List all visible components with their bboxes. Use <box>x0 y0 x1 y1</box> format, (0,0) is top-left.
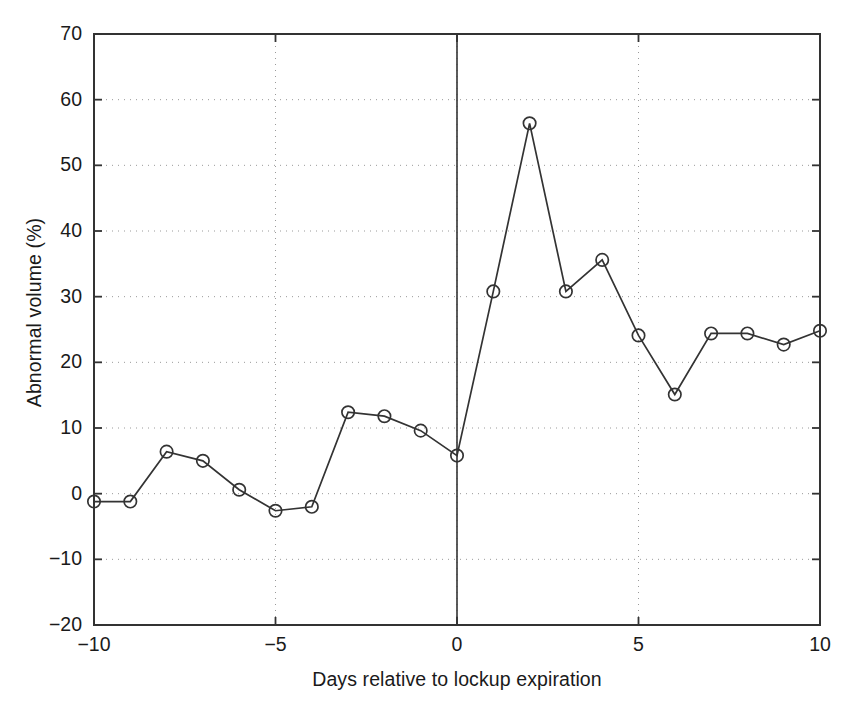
x-tick-label: 0 <box>422 633 492 656</box>
y-axis-title: Abnormal volume (%) <box>14 0 54 625</box>
abnormal-volume-line-chart <box>0 0 861 713</box>
x-tick-label: 10 <box>785 633 855 656</box>
x-axis-title: Days relative to lockup expiration <box>94 668 820 691</box>
x-tick-label: 5 <box>604 633 674 656</box>
figure-container: −20−10010203040506070 −10−50510 Abnormal… <box>0 0 861 713</box>
x-tick-label: −5 <box>241 633 311 656</box>
x-tick-label: −10 <box>59 633 129 656</box>
